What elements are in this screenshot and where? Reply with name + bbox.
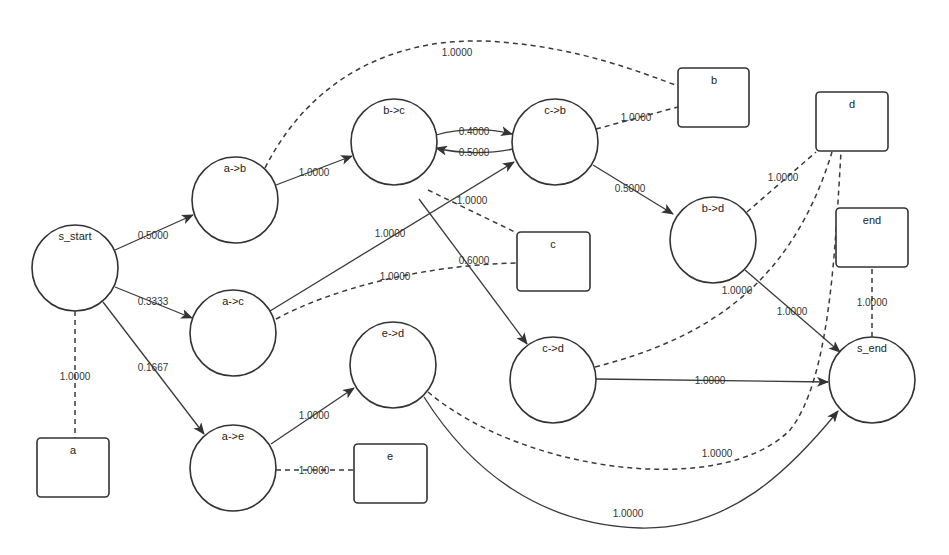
state-node-ac[interactable]: a->c: [190, 290, 276, 376]
node-label: s_end: [857, 342, 887, 354]
node-label: c->d: [542, 342, 564, 354]
node-label: c: [550, 238, 556, 250]
state-node-s_end[interactable]: s_end: [829, 337, 915, 423]
transition-edge-bc-cb: 0.4000: [436, 126, 512, 137]
emission-edge-bc-c: 1.0000: [428, 190, 517, 233]
edge-weight-label: 1.0000: [442, 47, 473, 58]
node-label: d: [849, 98, 855, 110]
edge-weight-label: 1.0000: [380, 271, 411, 282]
edge-weight-label: 0.4000: [459, 126, 490, 137]
emission-edge-s_start-a: 1.0000: [60, 311, 91, 438]
emission-edge-s_end-end: 1.0000: [857, 268, 888, 337]
edge-weight-label: 1.0000: [299, 410, 330, 421]
edge-weight-label: 1.0000: [768, 172, 799, 183]
transition-diagram: 1.0000 1.0000 1.0000 1.0000 1.0000 1.000…: [0, 0, 949, 555]
transition-edge-start-ab: 0.5000: [115, 215, 193, 250]
transition-edge-cb-bd: 0.5000: [593, 165, 673, 214]
edge-weight-label: 0.6000: [459, 255, 490, 266]
node-label: end: [863, 214, 881, 226]
edge-weight-label: 1.0000: [613, 508, 644, 519]
transition-edge-ed-end: 1.0000: [424, 397, 838, 528]
state-node-ae[interactable]: a->e: [190, 425, 276, 511]
edge-weight-label: 1.0000: [722, 285, 753, 296]
edge-weight-label: 0.5000: [615, 183, 646, 194]
edge-weight-label: 1.0000: [857, 297, 888, 308]
node-label: a->e: [222, 430, 244, 442]
edge-weight-label: 1.0000: [621, 112, 652, 123]
emission-edge-cb-b: 1.0000: [596, 107, 678, 129]
transition-edge-ab-bc: 1.0000: [276, 156, 352, 185]
node-label: s_start: [58, 230, 91, 242]
transition-edge-bc-cd: 0.6000: [419, 199, 527, 344]
emission-edge-ae-e: 1.0000: [276, 465, 354, 476]
emission-edge-bd-d: 1.0000: [747, 152, 816, 212]
edge-weight-label: 1.0000: [299, 465, 330, 476]
transition-edge-bd-end: 1.0000: [745, 270, 840, 352]
state-node-ab[interactable]: a->b: [192, 157, 278, 243]
node-label: b: [711, 74, 717, 86]
node-label: b->c: [383, 104, 405, 116]
emission-edge-ac-c: 1.0000: [276, 263, 517, 319]
emission-node-b[interactable]: b: [678, 68, 749, 127]
state-node-s_start[interactable]: s_start: [32, 225, 118, 311]
edge-weight-label: 1.0000: [695, 375, 726, 386]
node-label: e->d: [382, 327, 404, 339]
edge-weight-label: 1.0000: [777, 306, 808, 317]
state-node-bd[interactable]: b->d: [670, 197, 756, 283]
edge-weight-label: 1.0000: [299, 167, 330, 178]
edge-weight-label: 1.0000: [60, 371, 91, 382]
edge-weight-label: 1.0000: [457, 195, 488, 206]
state-node-cb[interactable]: c->b: [512, 99, 598, 185]
node-label: b->d: [702, 202, 724, 214]
node-label: c->b: [544, 104, 566, 116]
edge-weight-label: 1.0000: [702, 448, 733, 459]
transition-edge-start-ae: 0.1667: [103, 302, 204, 434]
node-label: e: [387, 450, 393, 462]
transition-edge-cb-bc: 0.5000: [436, 147, 513, 158]
state-node-ed[interactable]: e->d: [350, 322, 436, 408]
state-node-bc[interactable]: b->c: [351, 99, 437, 185]
node-label: a->c: [222, 295, 244, 307]
emission-node-a[interactable]: a: [37, 438, 109, 497]
node-label: a: [70, 444, 77, 456]
emission-node-d[interactable]: d: [816, 92, 888, 151]
edge-weight-label: 0.5000: [138, 230, 169, 241]
edge-weight-label: 0.1667: [138, 362, 169, 373]
emission-node-c[interactable]: c: [517, 232, 590, 291]
edge-weight-label: 0.5000: [459, 147, 490, 158]
edge-weight-label: 0.3333: [138, 296, 169, 307]
transition-edge-ae-ed: 1.0000: [271, 388, 354, 444]
emission-node-e[interactable]: e: [354, 444, 427, 503]
transition-edge-cd-end: 1.0000: [596, 375, 828, 386]
state-node-cd[interactable]: c->d: [510, 337, 596, 423]
edge-weight-label: 1.0000: [375, 228, 406, 239]
transition-edge-start-ac: 0.3333: [115, 287, 192, 318]
node-label: a->b: [224, 162, 246, 174]
emission-node-end[interactable]: end: [836, 208, 908, 267]
